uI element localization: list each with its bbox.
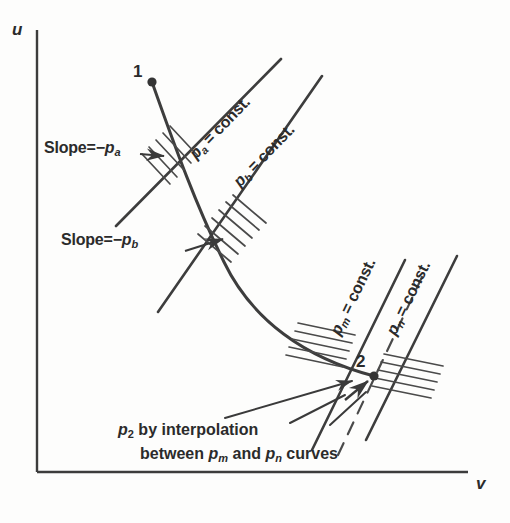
caption-and-text: and: [228, 445, 265, 462]
interpolation-caption: p2 by interpolation between pm and pn cu…: [118, 420, 338, 468]
caption-line-1-text: by interpolation: [134, 421, 258, 438]
caption-line-1: p2 by interpolation: [118, 420, 338, 444]
slope-pb-annotation: Slope=−pb: [61, 231, 138, 250]
point-1-label: 1: [133, 62, 142, 82]
slope-pa-symbol: p: [105, 139, 115, 156]
slope-pb-text: Slope=−: [61, 231, 122, 248]
point-2-arrow: [345, 381, 368, 400]
point-2-label: 2: [356, 352, 365, 372]
slope-pa-text: Slope=−: [44, 139, 105, 156]
x-axis-label: v: [476, 474, 485, 494]
caption-between-text: between: [140, 445, 208, 462]
slope-pb-symbol: p: [122, 231, 132, 248]
caption-pn-subscript: n: [275, 452, 282, 464]
caption-p2-symbol: p: [118, 421, 128, 438]
slope-pa-annotation: Slope=−pa: [44, 139, 120, 158]
caption-line-2: between pm and pn curves: [118, 444, 338, 468]
point-1-marker: [147, 77, 156, 86]
figure-canvas: u v 1 2 Slope=−pa Slope=−pb pa = const. …: [0, 0, 510, 523]
caption-curves-text: curves: [282, 445, 338, 462]
caption-pm-subscript: m: [218, 452, 228, 464]
point-2-marker: [369, 371, 378, 380]
y-axis-label: u: [12, 20, 22, 40]
caption-leader-lines: [225, 381, 366, 425]
caption-pn-symbol: p: [265, 445, 275, 462]
caption-pm-symbol: p: [208, 445, 218, 462]
axes-group: [37, 30, 468, 472]
slope-pb-subscript: b: [131, 238, 138, 250]
slope-pa-subscript: a: [114, 146, 120, 158]
